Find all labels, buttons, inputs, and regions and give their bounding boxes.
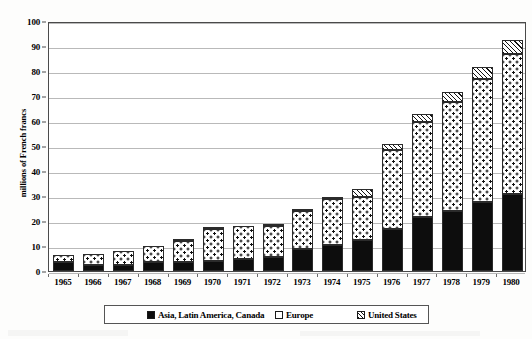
bar-segment[interactable]	[263, 226, 284, 257]
x-axis: 1965196619671968196919701971197219731974…	[48, 274, 526, 292]
bar-segment[interactable]	[352, 197, 373, 240]
bar-segment[interactable]	[233, 259, 254, 272]
bar-segment[interactable]	[173, 241, 194, 262]
bar-segment[interactable]	[233, 226, 254, 259]
x-tick-mark	[496, 274, 497, 277]
bar-group[interactable]	[143, 21, 164, 271]
bar-segment[interactable]	[382, 229, 403, 272]
bar-group[interactable]	[53, 21, 74, 271]
x-tick-label: 1977	[413, 277, 430, 287]
bar-segment[interactable]	[83, 265, 104, 271]
x-tick-label: 1975	[353, 277, 370, 287]
bar-segment[interactable]	[352, 189, 373, 198]
legend-item[interactable]: Asia, Latin America, Canada	[147, 310, 264, 320]
y-tick-mark	[42, 147, 46, 148]
bar-group[interactable]	[472, 21, 493, 271]
y-tick-mark	[42, 247, 46, 248]
y-tick-mark	[42, 122, 46, 123]
bar-segment[interactable]	[113, 265, 134, 271]
bar-group[interactable]	[322, 21, 343, 271]
bar-group[interactable]	[412, 21, 433, 271]
bar-segment[interactable]	[173, 239, 194, 241]
bar-segment[interactable]	[203, 229, 224, 262]
y-tick-label: 100	[27, 17, 40, 27]
bar-segment[interactable]	[412, 217, 433, 271]
bar-segment[interactable]	[442, 211, 463, 271]
bar-segment[interactable]	[263, 224, 284, 226]
legend-item[interactable]: United States	[357, 310, 417, 320]
bar-group[interactable]	[382, 21, 403, 271]
bar-segment[interactable]	[322, 199, 343, 245]
bar-segment[interactable]	[53, 255, 74, 263]
bar-group[interactable]	[233, 21, 254, 271]
bar-segment[interactable]	[442, 92, 463, 102]
bar-segment[interactable]	[382, 144, 403, 150]
bar-segment[interactable]	[412, 114, 433, 123]
bar-group[interactable]	[263, 21, 284, 271]
bar-segment[interactable]	[292, 249, 313, 272]
x-tick-mark	[138, 274, 139, 277]
bar-segment[interactable]	[143, 246, 164, 262]
x-tick-mark	[407, 274, 408, 277]
bar-segment[interactable]	[502, 194, 523, 272]
y-tick-mark	[42, 47, 46, 48]
y-tick-label: 60	[31, 117, 40, 127]
bar-group[interactable]	[352, 21, 373, 271]
bar-segment[interactable]	[53, 262, 74, 271]
x-tick-mark	[257, 274, 258, 277]
bar-group[interactable]	[83, 21, 104, 271]
bar-segment[interactable]	[292, 209, 313, 211]
y-tick-mark	[42, 22, 46, 23]
x-tick-label: 1973	[293, 277, 310, 287]
bar-segment[interactable]	[382, 150, 403, 229]
x-tick-mark	[287, 274, 288, 277]
bar-segment[interactable]	[83, 254, 104, 265]
y-tick-mark	[42, 72, 46, 73]
y-tick-label: 70	[31, 92, 40, 102]
bar-group[interactable]	[113, 21, 134, 271]
bar-segment[interactable]	[203, 261, 224, 271]
y-tick-mark	[42, 97, 46, 98]
bar-segment[interactable]	[502, 54, 523, 194]
y-tick-label: 40	[31, 167, 40, 177]
bar-segment[interactable]	[113, 251, 134, 265]
bar-group[interactable]	[292, 21, 313, 271]
bar-segment[interactable]	[472, 79, 493, 203]
chart-legend: Asia, Latin America, CanadaEuropeUnited …	[104, 305, 429, 324]
solid-black-swatch	[147, 311, 155, 319]
x-tick-label: 1965	[54, 277, 71, 287]
x-tick-label: 1968	[144, 277, 161, 287]
bar-segment[interactable]	[263, 257, 284, 271]
x-tick-mark	[227, 274, 228, 277]
x-tick-label: 1972	[263, 277, 280, 287]
x-tick-label: 1980	[502, 277, 519, 287]
white-swatch	[275, 311, 283, 319]
x-tick-mark	[317, 274, 318, 277]
bar-segment[interactable]	[502, 40, 523, 54]
bar-segment[interactable]	[292, 211, 313, 249]
bar-group[interactable]	[442, 21, 463, 271]
bar-segment[interactable]	[412, 122, 433, 217]
x-tick-label: 1966	[84, 277, 101, 287]
legend-label: United States	[368, 310, 417, 320]
bar-segment[interactable]	[322, 197, 343, 199]
bar-segment[interactable]	[472, 202, 493, 271]
bar-group[interactable]	[203, 21, 224, 271]
bar-segment[interactable]	[352, 240, 373, 271]
bar-segment[interactable]	[143, 262, 164, 271]
bar-segment[interactable]	[203, 227, 224, 229]
legend-item[interactable]: Europe	[275, 310, 313, 320]
bar-segment[interactable]	[472, 67, 493, 78]
bar-segment[interactable]	[322, 245, 343, 271]
y-axis: 0102030405060708090100	[0, 22, 46, 272]
bars-layer	[49, 23, 525, 271]
bar-group[interactable]	[502, 21, 523, 271]
y-tick-mark	[42, 197, 46, 198]
x-tick-mark	[108, 274, 109, 277]
bar-segment[interactable]	[442, 102, 463, 211]
y-tick-label: 50	[31, 142, 40, 152]
bar-group[interactable]	[173, 21, 194, 271]
bar-segment[interactable]	[173, 262, 194, 271]
y-tick-label: 0	[36, 267, 40, 277]
x-tick-label: 1971	[234, 277, 251, 287]
